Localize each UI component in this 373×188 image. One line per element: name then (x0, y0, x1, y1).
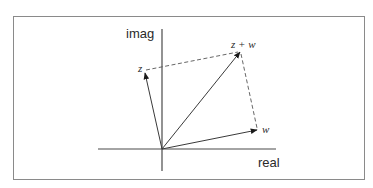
z-plus-w-label: z + w (230, 38, 256, 50)
dashed-w-to-sum (241, 54, 257, 128)
z-label: z (137, 62, 143, 74)
vector-z-plus-w (162, 52, 240, 149)
diagram-border (14, 17, 365, 180)
vector-z (145, 73, 162, 149)
vector-w (162, 130, 257, 149)
w-label: w (262, 123, 270, 135)
imag-axis-label: imag (126, 26, 154, 41)
complex-plane-diagram: imag real z w z + w (0, 0, 373, 188)
dashed-z-to-sum (146, 52, 238, 70)
real-axis-label: real (258, 155, 280, 170)
